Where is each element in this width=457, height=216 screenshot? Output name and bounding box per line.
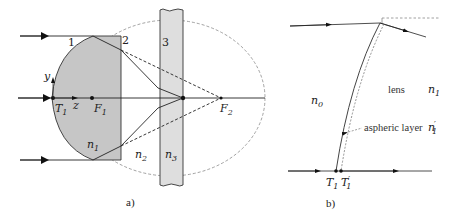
f2-label: F2 — [219, 102, 233, 117]
point-focus-window — [181, 96, 185, 100]
panel-b-caption: b) — [326, 197, 336, 210]
lens-surface — [336, 23, 380, 171]
n0-label: n0 — [311, 94, 323, 109]
point-t1-prime — [339, 169, 343, 173]
point-f1 — [90, 96, 94, 100]
t1-label: T1 — [326, 176, 338, 191]
surface-1-label: 1 — [68, 36, 75, 49]
y-axis-label: y — [43, 70, 51, 83]
aspheric-layer-label: aspheric layer — [364, 122, 423, 133]
panel-b: n0 lens n1 aspheric layer n′1 T1 T′1 b) — [288, 18, 440, 210]
surface-3-label: 3 — [162, 36, 169, 49]
surface-2-label: 2 — [122, 34, 129, 47]
aspheric-leader — [345, 128, 362, 133]
lens-label: lens — [388, 84, 405, 95]
aspheric-layer-surface — [341, 24, 384, 171]
n1-label: n1 — [428, 83, 440, 98]
point-f2 — [219, 96, 222, 99]
panel-a: 1 2 3 y z T1 F1 F2 n1 n2 n3 a) — [18, 9, 265, 209]
panel-a-caption: a) — [126, 196, 135, 209]
t1-prime-label: T′1 — [341, 174, 351, 191]
optics-figure: 1 2 3 y z T1 F1 F2 n1 n2 n3 a) — [0, 0, 457, 216]
n1-prime-label: n′1 — [428, 119, 437, 136]
n2-label: n2 — [135, 148, 147, 163]
ray-in-arrow-icon — [290, 25, 329, 26]
point-t1 — [334, 169, 338, 173]
z-axis-label: z — [72, 99, 79, 112]
